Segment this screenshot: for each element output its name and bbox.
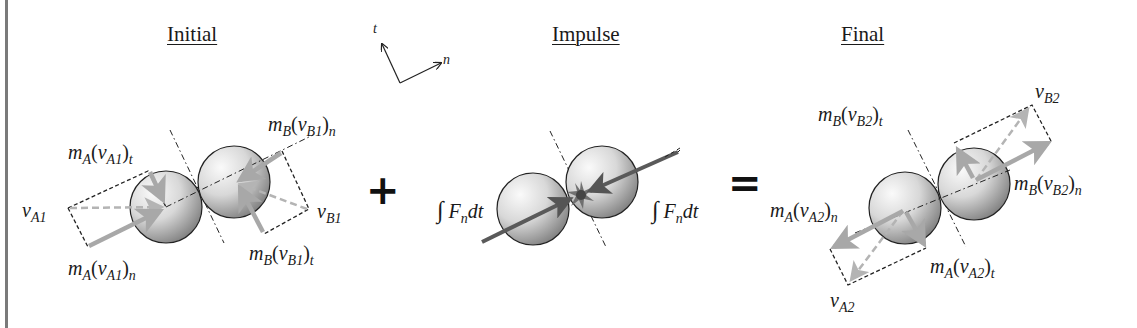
label-mA-vA2-t: mA(vA2)t bbox=[930, 256, 995, 281]
label-mB-vB2-n: mB(vB2)n bbox=[1014, 173, 1082, 198]
axis-n-label: n bbox=[443, 52, 450, 68]
label-mA-vA1-t: mA(vA1)t bbox=[68, 142, 133, 167]
sphere-b bbox=[938, 148, 1010, 220]
label-mA-vA2-n: mA(vA2)n bbox=[770, 200, 838, 225]
label-vB2: vB2 bbox=[1035, 81, 1059, 106]
label-impulse-left: ∫ Fndt bbox=[437, 198, 483, 226]
heading-final: Final bbox=[841, 22, 884, 47]
sphere-b bbox=[566, 146, 638, 218]
impulse-momentum-diagram: Initial Impulse Final t n + = mA(vA1)t v… bbox=[0, 0, 1137, 328]
tn-axes-icon bbox=[382, 44, 441, 83]
label-impulse-right: ∫ Fndt bbox=[652, 198, 698, 226]
label-vA2: vA2 bbox=[830, 290, 854, 315]
sphere-a bbox=[497, 173, 569, 245]
sphere-a bbox=[869, 172, 941, 244]
label-mB-vB2-t: mB(vB2)t bbox=[818, 104, 883, 129]
label-vA1: vA1 bbox=[22, 200, 46, 225]
heading-impulse: Impulse bbox=[552, 22, 620, 47]
plus-sign: + bbox=[366, 170, 400, 210]
equals-sign: = bbox=[728, 163, 762, 203]
heading-initial: Initial bbox=[167, 22, 217, 47]
label-vB1: vB1 bbox=[317, 201, 341, 226]
axis-t-label: t bbox=[373, 21, 377, 37]
label-mA-vA1-n: mA(vA1)n bbox=[68, 258, 136, 283]
label-mB-vB1-t: mB(vB1)t bbox=[249, 243, 314, 268]
sphere-b bbox=[198, 146, 270, 218]
impulse-panel-graphics bbox=[482, 131, 680, 247]
label-mB-vB1-n: mB(vB1)n bbox=[268, 114, 336, 139]
